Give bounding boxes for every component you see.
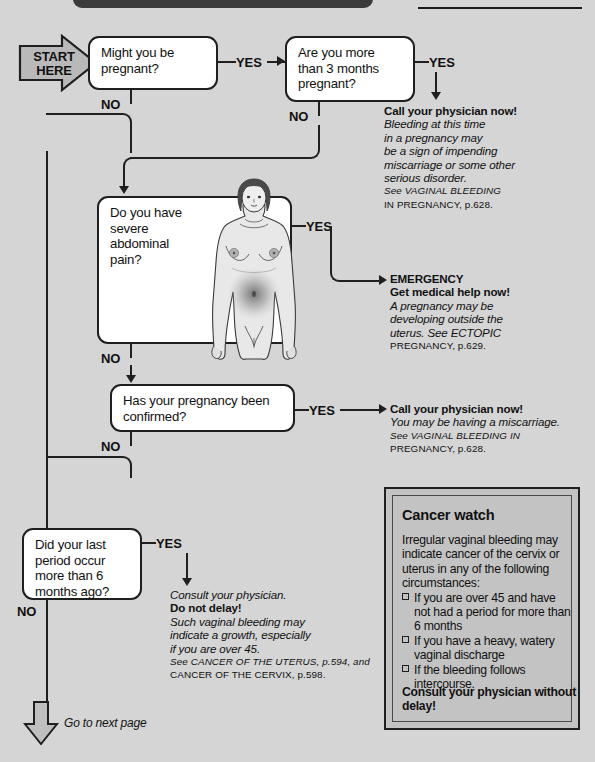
list-item: If you have a heavy, watery vaginal disc… [402, 634, 574, 663]
q3-no-label: NO [101, 351, 120, 366]
arrow-icon [379, 275, 387, 285]
connector [435, 72, 437, 94]
connector [295, 409, 309, 411]
connector-elbow [123, 157, 139, 179]
advice-line: IN PREGNANCY, p.628. [384, 198, 517, 211]
main-spine [46, 151, 48, 736]
arrow-icon [119, 186, 129, 194]
advice-line: PREGNANCY, p.628. [390, 442, 560, 455]
question-box-4[interactable]: Has your pregnancy been confirmed? [110, 384, 295, 432]
question-2-text: Are you more than 3 months pregnant? [298, 45, 379, 92]
arrow-icon [277, 56, 285, 66]
advice-line: See VAGINAL BLEEDING [384, 184, 517, 197]
connector [292, 225, 306, 227]
next-page-marker[interactable]: Go to next page [22, 700, 60, 750]
connector-elbow [46, 113, 132, 153]
advice-line: See VAGINAL BLEEDING IN [390, 429, 560, 442]
advice-line: Get medical help now! [390, 285, 510, 298]
header-rule [0, 0, 595, 18]
advice-line: Do not delay! [170, 601, 370, 614]
question-box-5[interactable]: Did your last period occur more than 6 m… [22, 528, 142, 600]
start-here-arrow: START HERE [18, 34, 98, 92]
connector [130, 157, 270, 159]
question-box-1[interactable]: Might you be pregnant? [88, 36, 218, 90]
connector [340, 409, 384, 411]
q1-yes-label: YES [236, 55, 262, 70]
connector [344, 280, 384, 282]
advice-block-3: Call your physician now! You may be havi… [390, 402, 560, 456]
advice-line: Bleeding at this time [384, 117, 517, 130]
question-3-text: Do you have severe abdominal pain? [110, 205, 182, 267]
connector [415, 61, 429, 63]
connector-elbow [330, 226, 346, 282]
advice-line: CANCER OF THE CERVIX, p.598. [170, 668, 370, 681]
arrow-icon [379, 404, 387, 414]
chart-page: START HERE Might you be pregnant? YES NO… [0, 0, 595, 762]
connector [142, 542, 156, 544]
connector [130, 90, 132, 104]
advice-line: in a pregnancy may [384, 131, 517, 144]
question-4-text: Has your pregnancy been confirmed? [123, 393, 269, 424]
start-label-line2: HERE [36, 63, 71, 78]
q5-yes-label: YES [156, 536, 182, 551]
advice-line: Such vaginal bleeding may [170, 615, 370, 628]
advice-block-1: Call your physician now! Bleeding at thi… [384, 104, 517, 211]
question-1-text: Might you be pregnant? [101, 45, 174, 76]
advice-block-2: EMERGENCY Get medical help now! A pregna… [390, 272, 510, 352]
connector-elbow [46, 456, 132, 478]
advice-block-4: Consult your physician. Do not delay! Su… [170, 588, 370, 682]
cancer-watch-body: Irregular vaginal bleeding may indicate … [402, 533, 574, 691]
advice-line: if you are over 45. [170, 642, 370, 655]
checkbox-icon[interactable] [402, 636, 409, 643]
list-item: If you are over 45 and have not had a pe… [402, 591, 574, 634]
cancer-watch-footer: Consult your physician without delay! [402, 685, 578, 714]
question-box-2[interactable]: Are you more than 3 months pregnant? [285, 36, 415, 102]
connector [186, 553, 188, 581]
cancer-watch-panel: Cancer watch Irregular vaginal bleeding … [384, 487, 580, 730]
start-label-line1: START [33, 49, 74, 64]
connector [130, 344, 132, 358]
advice-line: EMERGENCY [390, 272, 510, 285]
cancer-watch-list: If you are over 45 and have not had a pe… [402, 591, 574, 692]
connector [318, 102, 320, 116]
q4-no-label: NO [101, 439, 120, 454]
advice-line: PREGNANCY, p.629. [390, 339, 510, 352]
q2-no-label: NO [289, 109, 308, 124]
advice-line: You may be having a miscarriage. [390, 415, 560, 428]
arrow-icon [182, 578, 192, 586]
q2-yes-label: YES [429, 55, 455, 70]
female-anatomy-illustration [198, 176, 310, 362]
connector [130, 432, 132, 446]
advice-line: Call your physician now! [384, 104, 517, 117]
q3-yes-label: YES [306, 219, 332, 234]
cancer-watch-intro: Irregular vaginal bleeding may indicate … [402, 533, 574, 591]
q5-no-label: NO [17, 604, 36, 619]
checkbox-icon[interactable] [402, 593, 409, 600]
list-item-label: If you have a heavy, watery vaginal disc… [414, 634, 555, 662]
q4-yes-label: YES [309, 403, 335, 418]
advice-line: miscarriage or some other [384, 158, 517, 171]
advice-line: be a sign of impending [384, 144, 517, 157]
list-item-label: If you are over 45 and have not had a pe… [414, 591, 570, 634]
advice-line: indicate a growth, especially [170, 628, 370, 641]
q1-no-label: NO [101, 97, 120, 112]
advice-line: Call your physician now! [390, 402, 560, 415]
checkbox-icon[interactable] [402, 665, 409, 672]
next-page-label: Go to next page [64, 716, 146, 730]
cancer-watch-title: Cancer watch [402, 507, 495, 523]
advice-line: A pregnancy may be [390, 299, 510, 312]
question-5-text: Did your last period occur more than 6 m… [35, 537, 109, 599]
advice-line: serious disorder. [384, 171, 517, 184]
advice-line: developing outside the [390, 312, 510, 325]
advice-line: uterus. See ECTOPIC [390, 326, 510, 339]
arrow-icon [431, 92, 441, 100]
advice-line: Consult your physician. [170, 588, 370, 601]
connector [218, 61, 236, 63]
connector-elbow [268, 125, 320, 159]
arrow-icon [126, 375, 136, 383]
advice-line: See CANCER OF THE UTERUS, p.594, and [170, 655, 370, 668]
